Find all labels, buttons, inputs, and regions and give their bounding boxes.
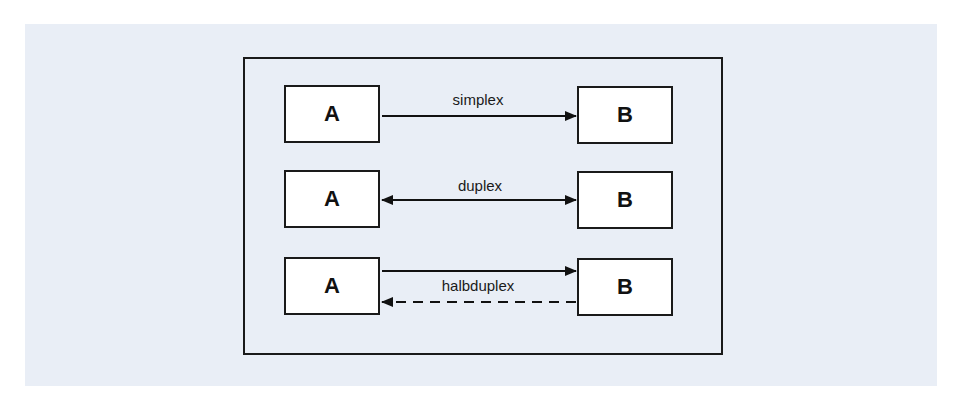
node-a-simplex: A	[284, 85, 380, 143]
node-label: B	[617, 274, 633, 300]
halbduplex-label: halbduplex	[442, 277, 515, 294]
node-b-halbduplex: B	[577, 258, 673, 316]
node-label: A	[324, 101, 340, 127]
node-label: B	[617, 187, 633, 213]
node-label: B	[617, 102, 633, 128]
node-b-simplex: B	[577, 86, 673, 144]
arrows-layer	[0, 0, 962, 401]
node-b-duplex: B	[577, 171, 673, 229]
duplex-label: duplex	[458, 177, 502, 194]
simplex-label: simplex	[453, 91, 504, 108]
node-a-duplex: A	[284, 170, 380, 228]
node-label: A	[324, 273, 340, 299]
node-label: A	[324, 186, 340, 212]
node-a-halbduplex: A	[284, 257, 380, 315]
